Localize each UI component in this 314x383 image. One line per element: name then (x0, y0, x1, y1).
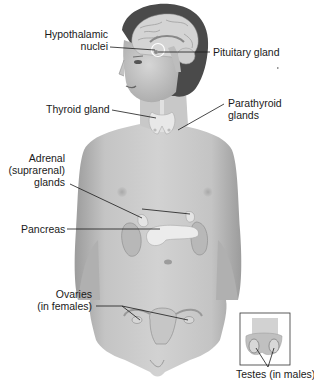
right-nipple (203, 187, 213, 197)
label-testes: Testes (in males) (236, 368, 314, 380)
label-pituitary-gland: Pituitary gland (213, 46, 280, 58)
label-parathyroid-glands: Parathyroid glands (228, 97, 282, 121)
label-parathyroid-line1: Parathyroid (228, 97, 282, 109)
label-adrenal-line1: Adrenal (0, 152, 65, 164)
label-ovaries-line1: Ovaries (20, 288, 92, 300)
endocrine-diagram: Hypothalamic nuclei Pituitary gland Thyr… (0, 0, 314, 383)
parathyroid-right (167, 128, 170, 131)
pituitary-gland-shape (154, 50, 158, 54)
label-parathyroid-line2: glands (228, 109, 282, 121)
parathyroid-left (153, 128, 156, 131)
label-ovaries-line2: (in females) (20, 300, 92, 312)
label-ovaries: Ovaries (in females) (20, 288, 92, 312)
label-pancreas: Pancreas (21, 223, 65, 235)
label-adrenal-line2: (suprarenal) (0, 164, 65, 176)
navel (164, 260, 172, 265)
label-adrenal-glands: Adrenal (suprarenal) glands (0, 152, 65, 188)
label-hypothalamic-line2: nuclei (36, 40, 108, 52)
right-testis (269, 339, 279, 353)
label-hypothalamic-line1: Hypothalamic (36, 28, 108, 40)
speck (277, 67, 279, 69)
right-adrenal-gland (186, 211, 195, 222)
eye (134, 60, 142, 64)
label-thyroid-gland: Thyroid gland (46, 103, 110, 115)
label-adrenal-line3: glands (0, 176, 65, 188)
testes-inset (240, 313, 290, 365)
nose (119, 60, 124, 76)
left-nipple (117, 187, 127, 197)
head (119, 4, 208, 102)
right-ovary (184, 317, 194, 324)
cerebellum (177, 48, 195, 64)
label-hypothalamic-nuclei: Hypothalamic nuclei (36, 28, 108, 52)
